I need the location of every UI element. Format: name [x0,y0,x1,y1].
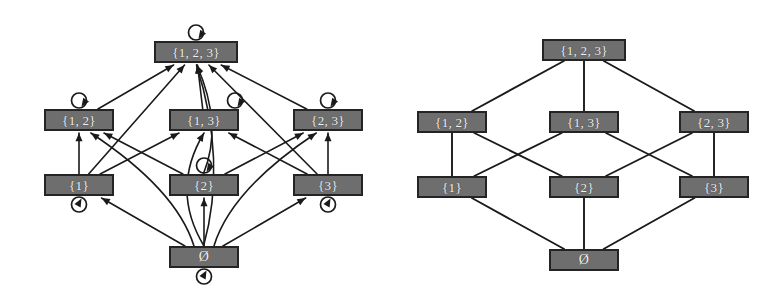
node-hasse-s1: {1} [417,176,487,198]
hasse-diagram-panel: {1, 2, 3}{1, 2}{1, 3}{2, 3}{1}{2}{3}Ø [390,0,775,305]
node-label: Ø [579,253,589,267]
node-digraph-empty: Ø [169,246,239,268]
node-label: {3} [704,181,724,194]
node-label: {1} [442,181,462,194]
node-label: {2} [194,179,214,192]
node-hasse-s12: {1, 2} [417,111,487,133]
node-digraph-s23: {2, 3} [293,109,363,131]
node-hasse-s3: {3} [679,176,749,198]
node-label: {1} [69,179,89,192]
node-label: Ø [199,250,209,264]
figure-root: {1, 2, 3}{1, 2}{1, 3}{2, 3}{1}{2}{3}Ø {1… [0,0,775,305]
node-digraph-full: {1, 2, 3} [154,41,238,63]
node-digraph-s1: {1} [44,174,114,196]
node-digraph-s12: {1, 2} [44,109,114,131]
node-digraph-s3: {3} [293,174,363,196]
node-hasse-s2: {2} [549,176,619,198]
node-hasse-empty: Ø [549,249,619,271]
node-label: {1, 2} [62,114,96,127]
node-label: {1, 3} [567,116,601,129]
node-label: {1, 2, 3} [560,44,608,57]
node-label: {2, 3} [697,116,731,129]
node-hasse-s23: {2, 3} [679,111,749,133]
node-label: {2} [574,181,594,194]
node-label: {1, 2} [435,116,469,129]
node-digraph-s13: {1, 3} [169,109,239,131]
node-hasse-full: {1, 2, 3} [542,39,626,61]
node-label: {1, 3} [187,114,221,127]
node-hasse-s13: {1, 3} [549,111,619,133]
node-digraph-s2: {2} [169,174,239,196]
node-label: {1, 2, 3} [172,46,220,59]
node-label: {2, 3} [311,114,345,127]
node-label: {3} [318,179,338,192]
subset-relation-digraph-panel: {1, 2, 3}{1, 2}{1, 3}{2, 3}{1}{2}{3}Ø [0,0,390,305]
